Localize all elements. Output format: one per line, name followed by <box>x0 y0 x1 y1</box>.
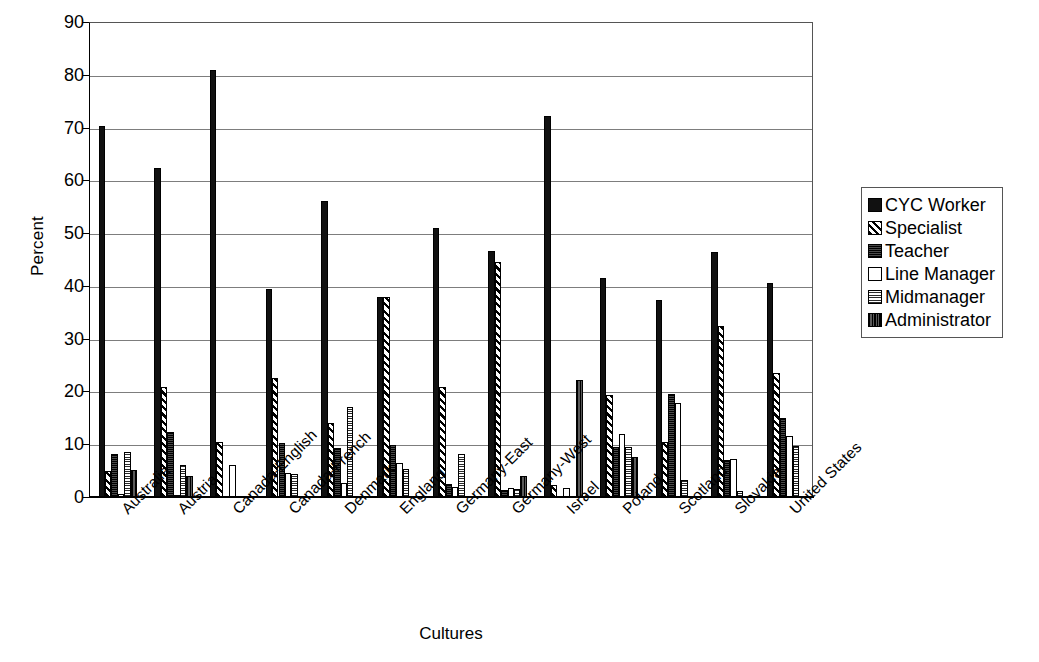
y-tick-label: 60 <box>38 171 84 189</box>
legend-swatch-icon <box>868 244 882 258</box>
x-axis-title-wrap: Cultures <box>89 0 813 662</box>
y-tick-label: 50 <box>38 224 84 242</box>
legend-label: CYC Worker <box>885 196 986 214</box>
legend-item: Specialist <box>868 216 995 239</box>
y-tick-mark <box>83 339 89 340</box>
legend-item: Midmanager <box>868 285 995 308</box>
legend-swatch-icon <box>868 313 882 327</box>
y-tick-mark <box>83 180 89 181</box>
y-tick-mark <box>83 22 89 23</box>
y-tick-label: 20 <box>38 382 84 400</box>
y-tick-label: 30 <box>38 330 84 348</box>
y-tick-mark <box>83 444 89 445</box>
legend-swatch-icon <box>868 267 882 281</box>
bar-chart: Percent 0102030405060708090 AustraliaAus… <box>0 0 1039 662</box>
y-tick-mark <box>83 233 89 234</box>
y-axis-tick-labels: 0102030405060708090 <box>26 0 84 662</box>
legend-item: CYC Worker <box>868 193 995 216</box>
legend-item: Teacher <box>868 239 995 262</box>
y-tick-mark <box>83 497 89 498</box>
legend-label: Specialist <box>885 219 962 237</box>
legend-label: Teacher <box>885 242 949 260</box>
y-tick-mark <box>83 391 89 392</box>
y-tick-label: 10 <box>38 435 84 453</box>
legend-item: Line Manager <box>868 262 995 285</box>
y-tick-label: 0 <box>38 488 84 506</box>
legend-swatch-icon <box>868 198 882 212</box>
legend-item: Administrator <box>868 308 995 331</box>
legend-label: Administrator <box>885 311 991 329</box>
legend-swatch-icon <box>868 290 882 304</box>
y-tick-label: 70 <box>38 119 84 137</box>
y-tick-label: 80 <box>38 66 84 84</box>
y-tick-mark <box>83 75 89 76</box>
legend-label: Midmanager <box>885 288 985 306</box>
legend-swatch-icon <box>868 221 882 235</box>
y-tick-label: 40 <box>38 277 84 295</box>
y-tick-mark <box>83 128 89 129</box>
x-axis-title: Cultures <box>89 624 813 644</box>
legend-label: Line Manager <box>885 265 995 283</box>
y-tick-mark <box>83 286 89 287</box>
chart-legend: CYC WorkerSpecialistTeacherLine ManagerM… <box>861 187 1003 338</box>
y-tick-label: 90 <box>38 13 84 31</box>
